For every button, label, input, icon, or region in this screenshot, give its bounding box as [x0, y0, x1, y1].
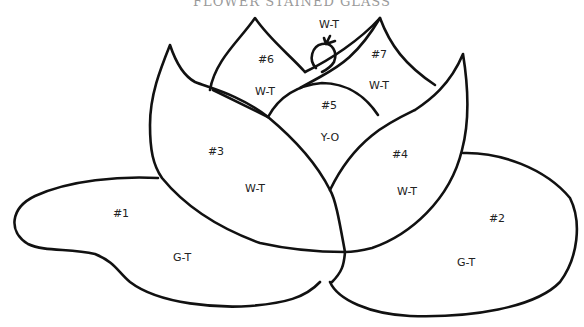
- piece-2-number: #2: [489, 212, 505, 225]
- piece-1-outline: [14, 178, 320, 307]
- piece-2-glass-code: G-T: [457, 256, 475, 269]
- piece-6-outline: [210, 18, 305, 117]
- piece-5-glass-code: Y-O: [321, 131, 339, 144]
- piece-7-glass-code: W-T: [369, 79, 389, 92]
- piece-5-number: #5: [321, 99, 337, 112]
- piece-7-number: #7: [371, 48, 387, 61]
- piece-4-glass-code: W-T: [397, 185, 417, 198]
- piece-1-glass-code: G-T: [173, 251, 191, 264]
- piece-4-outline: [330, 54, 467, 282]
- piece-6-number: #6: [258, 53, 274, 66]
- piece-1-number: #1: [113, 207, 129, 220]
- piece-6-glass-code: W-T: [255, 85, 275, 98]
- bud-glass-code: W-T: [319, 18, 339, 31]
- flower-pattern-drawing: [0, 0, 584, 327]
- piece-3-glass-code: W-T: [245, 182, 265, 195]
- piece-3-number: #3: [208, 145, 224, 158]
- piece-3-outline: [150, 45, 345, 252]
- piece-4-number: #4: [392, 148, 408, 161]
- bud-stem-mark: [324, 36, 335, 44]
